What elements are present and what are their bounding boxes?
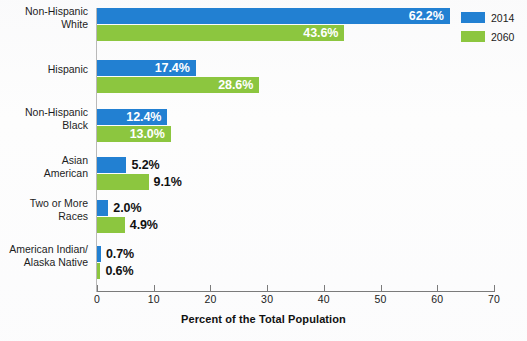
chart-figure: 62.2%43.6%17.4%28.6%12.4%13.0%5.2%9.1%2.… (0, 0, 527, 341)
bar-value-label-2014-0: 62.2% (97, 8, 444, 24)
value-axis-zero-line (96, 8, 97, 292)
bar-value-label-2060-5: 0.6% (105, 263, 133, 279)
plot-area: 62.2%43.6%17.4%28.6%12.4%13.0%5.2%9.1%2.… (97, 8, 494, 291)
x-axis-line (97, 291, 495, 292)
x-tick-label: 20 (190, 293, 230, 305)
bar-value-label-2014-4: 2.0% (113, 200, 141, 216)
bar-value-label-2060-1: 28.6% (97, 77, 253, 93)
bar-value-label-2014-5: 0.7% (106, 246, 134, 262)
bar-value-label-2060-0: 43.6% (97, 25, 338, 41)
bar-value-label-2060-4: 4.9% (130, 217, 158, 233)
category-label-4: Two or MoreRaces (0, 197, 88, 222)
chart-legend: 2014 2060 (461, 10, 514, 48)
category-label-0: Non-HispanicWhite (0, 5, 88, 30)
category-label-line: Black (0, 119, 88, 132)
bar-2060-5[interactable] (97, 263, 100, 279)
category-label-3: AsianAmerican (0, 154, 88, 179)
legend-swatch-icon-2014 (461, 12, 485, 23)
category-label-line: Races (0, 210, 88, 223)
legend-item-2060[interactable]: 2060 (461, 29, 514, 44)
x-tick-label: 30 (247, 293, 287, 305)
category-label-5: American Indian/Alaska Native (0, 243, 88, 268)
x-tick (324, 285, 325, 291)
x-tick-label: 40 (304, 293, 344, 305)
x-tick-label: 10 (134, 293, 174, 305)
x-tick (97, 285, 98, 291)
bar-2014-3[interactable] (97, 157, 126, 173)
category-label-line: Non-Hispanic (0, 5, 88, 18)
x-tick-label: 50 (361, 293, 401, 305)
category-label-2: Non-HispanicBlack (0, 106, 88, 131)
category-label-line: Alaska Native (0, 256, 88, 269)
x-tick (210, 285, 211, 291)
x-tick-label: 60 (417, 293, 457, 305)
bar-value-label-2014-2: 12.4% (97, 109, 161, 125)
bar-2014-5[interactable] (97, 246, 101, 262)
category-label-line: White (0, 18, 88, 31)
category-label-line: Non-Hispanic (0, 106, 88, 119)
x-axis-title: Percent of the Total Population (0, 313, 527, 325)
x-tick-label: 70 (474, 293, 514, 305)
category-label-line: American Indian/ (0, 243, 88, 256)
x-tick (381, 285, 382, 291)
x-tick-label: 0 (77, 293, 117, 305)
bar-value-label-2014-3: 5.2% (131, 157, 159, 173)
bar-2060-4[interactable] (97, 217, 125, 233)
legend-swatch-icon-2060 (461, 31, 485, 42)
category-label-1: Hispanic (0, 63, 88, 76)
category-label-line: Asian (0, 154, 88, 167)
category-label-line: Hispanic (0, 63, 88, 76)
x-tick (494, 285, 495, 291)
bar-2014-4[interactable] (97, 200, 108, 216)
bar-value-label-2060-2: 13.0% (97, 126, 165, 142)
x-tick (437, 285, 438, 291)
legend-label-2014: 2014 (491, 12, 514, 24)
category-label-line: Two or More (0, 197, 88, 210)
legend-item-2014[interactable]: 2014 (461, 10, 514, 25)
bar-value-label-2060-3: 9.1% (154, 174, 182, 190)
bar-value-label-2014-1: 17.4% (97, 60, 190, 76)
category-label-line: American (0, 167, 88, 180)
bar-2060-3[interactable] (97, 174, 149, 190)
x-tick (154, 285, 155, 291)
x-tick (267, 285, 268, 291)
legend-label-2060: 2060 (491, 31, 514, 43)
